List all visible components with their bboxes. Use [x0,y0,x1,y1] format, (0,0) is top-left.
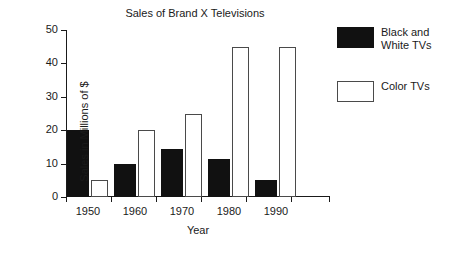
x-tick-2b [156,197,157,202]
bar-bw-1970 [161,149,183,197]
x-tick-5 [291,197,292,202]
bar-bw-1990 [255,180,277,197]
x-tick-end [329,197,330,202]
y-tick-label-30: 30 [32,90,58,103]
x-tick-4 [246,197,247,202]
legend-label-color-tvs: Color TVs [381,80,430,93]
y-tick-label-50: 50 [32,23,58,36]
y-tick-label-10: 10 [32,157,58,170]
bar-bw-1960 [114,164,136,197]
y-tick-label-0: 0 [32,190,58,203]
x-tick-1 [111,197,112,202]
legend-entry-black-white-tvs: Black and White TVs [337,26,432,51]
bar-color-1950 [91,180,108,197]
chart-title: Sales of Brand X Televisions [60,7,330,20]
y-tick-30 [61,97,66,98]
y-tick-40 [61,63,66,64]
legend-swatch-black-icon [337,27,374,48]
bar-bw-1980 [208,159,230,197]
y-tick-label-40: 40 [32,56,58,69]
y-tick-10 [61,164,66,165]
x-tick-3 [201,197,202,202]
legend-entry-color-tvs: Color TVs [337,80,430,102]
bar-color-1970 [185,114,202,198]
y-axis-title: Sales in Millions of $ [78,52,91,212]
x-axis-title: Year [66,224,330,237]
legend-swatch-white-icon [337,81,374,102]
legend-label-black-white-tvs: Black and White TVs [381,26,432,51]
y-tick-20 [61,130,66,131]
bar-color-1980 [232,47,249,197]
chart-figure: Sales of Brand X Televisions 0 10 20 30 … [0,0,453,254]
y-tick-label-20: 20 [32,123,58,136]
x-tick-label-1990: 1990 [246,205,306,218]
bar-color-1990 [279,47,296,197]
x-tick-2 [66,197,67,202]
plot-area: 0 10 20 30 40 50 [66,30,330,197]
bar-color-1960 [138,130,155,197]
y-tick-50 [61,30,66,31]
